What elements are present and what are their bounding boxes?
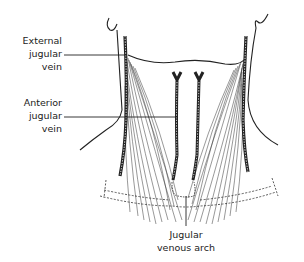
external-jugular-veins: [120, 36, 248, 176]
label-line: vein: [4, 60, 62, 73]
left-sternocleidomastoid: [125, 58, 182, 224]
label-anterior-jugular-vein: Anterior jugular vein: [4, 96, 62, 135]
label-external-jugular-vein: External jugular vein: [4, 34, 62, 73]
label-jugular-venous-arch: Jugular venous arch: [146, 228, 226, 254]
anterior-jugular-veins: [173, 72, 203, 180]
label-line: jugular: [4, 47, 62, 60]
clavicle-outline: [100, 178, 278, 207]
label-line: jugular: [4, 109, 62, 122]
label-line: venous arch: [146, 241, 226, 254]
label-line: Anterior: [4, 96, 62, 109]
label-line: External: [4, 34, 62, 47]
label-line: Jugular: [146, 228, 226, 241]
label-line: vein: [4, 122, 62, 135]
neck-outline: [80, 14, 278, 150]
